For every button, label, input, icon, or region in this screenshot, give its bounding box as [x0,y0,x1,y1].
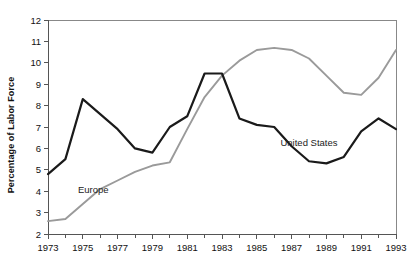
x-tick-label: 1979 [142,242,163,253]
y-tick-label: 7 [36,122,41,133]
x-tick-label: 1975 [72,242,93,253]
y-tick-label: 11 [31,36,41,47]
x-tick-label: 1973 [37,242,58,253]
plot-frame [48,20,396,234]
x-tick-label: 1991 [351,242,372,253]
y-tick-label: 6 [36,143,41,154]
series-annotation-europe: Europe [78,184,109,195]
series-line-united-states [48,74,396,175]
y-tick-label: 2 [36,229,41,240]
line-chart-plot: 2345678910111219731975197719791981198319… [0,0,420,270]
x-tick-label: 1985 [246,242,267,253]
x-tick-label: 1981 [177,242,198,253]
y-tick-label: 4 [36,186,41,197]
y-tick-label: 8 [36,100,41,111]
y-tick-label: 12 [30,15,41,26]
y-tick-label: 5 [36,164,41,175]
y-tick-label: 3 [36,207,41,218]
x-tick-label: 1993 [385,242,406,253]
y-tick-label: 9 [36,79,41,90]
x-tick-label: 1987 [281,242,302,253]
y-tick-label: 10 [30,57,41,68]
x-tick-label: 1989 [316,242,337,253]
series-annotation-united-states: United States [280,137,337,148]
x-tick-label: 1977 [107,242,128,253]
plot-axes [48,20,396,234]
x-tick-label: 1983 [211,242,232,253]
chart-figure: Percentage of Labor Force 23456789101112… [0,0,420,270]
